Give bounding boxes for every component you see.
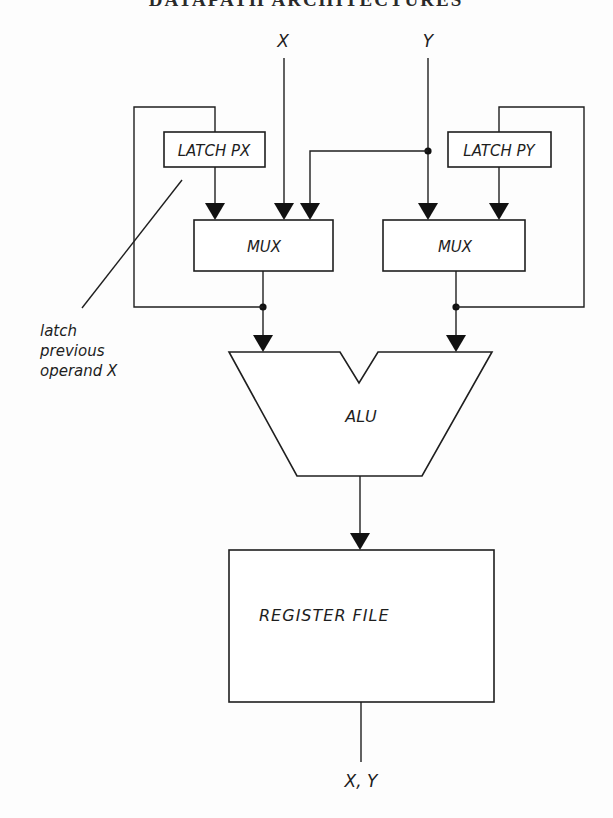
datapath-diagram: DATAPATH ARCHITECTURES X Y LATCH PX LATC… <box>0 0 613 818</box>
mux-left-label: MUX <box>247 238 282 256</box>
latch-py-label: LATCH PY <box>463 142 536 160</box>
x-input-arrow-icon <box>274 203 294 220</box>
mux-right-label: MUX <box>438 238 473 256</box>
alu-left-input-arrow-icon <box>253 335 273 352</box>
alu-right-input-arrow-icon <box>446 335 466 352</box>
output-xy-label: X, Y <box>344 771 379 791</box>
latch-py-arrow-icon <box>489 203 509 220</box>
diagram-page: DATAPATH ARCHITECTURES X Y LATCH PX LATC… <box>0 0 613 818</box>
y-input-arrow-icon <box>418 203 438 220</box>
annotation-line-1: latch <box>40 322 77 340</box>
input-y-label: Y <box>423 31 435 51</box>
register-file-block <box>229 550 494 702</box>
running-header: DATAPATH ARCHITECTURES <box>149 0 463 10</box>
register-file-label: REGISTER FILE <box>259 606 390 625</box>
latch-px-arrow-icon <box>205 203 225 220</box>
y-branch-arrow-icon <box>300 203 320 220</box>
annotation-line-2: previous <box>39 342 105 360</box>
annotation-line-3: operand X <box>40 362 118 380</box>
input-x-label: X <box>276 31 289 51</box>
alu-label: ALU <box>344 407 377 426</box>
latch-px-label: LATCH PX <box>178 142 251 160</box>
register-file-input-arrow-icon <box>350 533 370 550</box>
y-branch-wire <box>310 151 428 206</box>
annotation-leader-line <box>82 180 182 308</box>
